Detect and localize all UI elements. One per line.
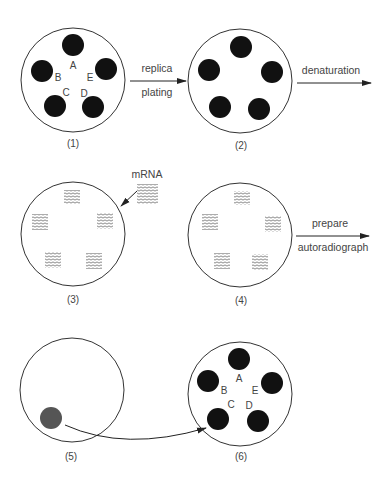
curved-arrow-icon [65, 425, 206, 439]
mrna-label: mRNA [132, 168, 163, 180]
colony [261, 61, 283, 83]
mrna-blot [265, 216, 281, 232]
mrna-blot [214, 253, 230, 269]
mrna-blot [45, 252, 61, 268]
dish-6-label: (6) [235, 451, 247, 462]
mrna-wave-icon [137, 184, 158, 204]
step-label-line2: plating [142, 86, 173, 98]
colony-label-b: B [221, 385, 228, 396]
step-label-line1: denaturation [302, 64, 361, 76]
colony [209, 96, 231, 118]
colony-label-e: E [87, 72, 94, 83]
colony-label-a: A [70, 60, 77, 71]
colony [198, 59, 220, 81]
step-label-line2: autoradiograph [298, 241, 369, 253]
dish-1-label: (1) [67, 138, 79, 149]
colony-label-d: D [245, 400, 252, 411]
mrna-blot [202, 214, 218, 230]
dish-5-label: (5) [65, 451, 77, 462]
autoradiograph-spot [40, 407, 62, 429]
colony-label-d: D [80, 88, 87, 99]
step-prepare-autoradiograph: prepare autoradiograph [296, 217, 369, 253]
dish-3-label: (3) [67, 294, 79, 305]
dish-4-label: (4) [235, 295, 247, 306]
mrna-blot [64, 190, 80, 204]
colony-a [62, 34, 84, 56]
dish-1: A B E C D (1) [21, 28, 125, 149]
dish-2-label: (2) [235, 140, 247, 151]
colony [230, 36, 252, 58]
step-label-line1: prepare [312, 217, 348, 229]
colony-label-c: C [227, 399, 234, 410]
mrna-blot [234, 191, 250, 205]
colony [248, 98, 270, 120]
step-denaturation: denaturation [297, 64, 371, 83]
mrna-blot [32, 214, 48, 230]
colony-e [95, 58, 117, 80]
mrna-blot [97, 213, 113, 229]
colony-c [44, 95, 66, 117]
dish-6: A B E C D (6) [188, 342, 292, 462]
dish-5: (5) [20, 338, 124, 462]
colony-d [82, 96, 104, 118]
colony-label-e: E [252, 385, 259, 396]
colony-b [31, 60, 53, 82]
colony-b [197, 370, 219, 392]
colony-e [261, 372, 283, 394]
colony-label-b: B [55, 72, 62, 83]
arrow-icon [121, 191, 137, 206]
mrna-blot [252, 254, 268, 270]
dish-4: (4) [188, 183, 292, 306]
colony-label-a: A [236, 373, 243, 384]
dish-2: (2) [188, 29, 292, 151]
replica-plating-diagram: A B E C D (1) replica plating (2) denatu… [0, 0, 390, 480]
mrna-blot [86, 253, 102, 269]
dish-3: (3) [21, 182, 125, 305]
mrna-callout: mRNA [121, 168, 162, 206]
colony-d [247, 410, 269, 432]
step-label-line1: replica [142, 62, 173, 74]
colony-c [207, 408, 229, 430]
colony-a [228, 348, 250, 370]
colony-label-c: C [62, 87, 69, 98]
step-replica-plating: replica plating [130, 62, 186, 98]
